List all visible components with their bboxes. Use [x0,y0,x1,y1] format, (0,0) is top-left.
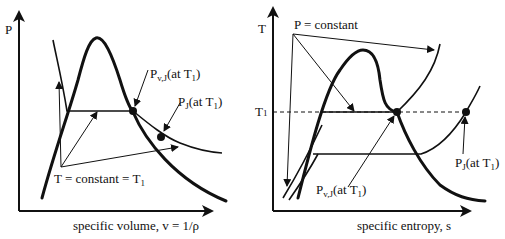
isotherm-label: T = constant = T1 [54,171,145,188]
isobar-pj [313,86,480,154]
isotherm-pointer-liquid [59,82,61,167]
s-axis-label: specific entropy, s [357,218,451,233]
pj-label-ts: PJ(at T1) [455,155,499,172]
pvj-point-pv [129,107,137,115]
pj-pointer-ts [463,117,465,154]
pj-point-ts [462,108,470,116]
diagram-canvas: P specific volume, v = 1/ρ Pv,J(at T1) P… [0,0,505,239]
pvj-label-ts: Pv,J(at T1) [316,182,366,199]
isobar-pointer-liquid [287,34,293,186]
pj-label-pv: PJ(at T1) [178,94,222,111]
pj-point-pv [157,133,165,141]
ts-diagram: T specific entropy, s T1 P = constant Pv… [255,8,499,233]
pv-diagram: P specific volume, v = 1/ρ Pv,J(at T1) P… [5,12,226,233]
v-axis-label: specific volume, v = 1/ρ [73,218,199,233]
isobar-pointer-vapor [293,34,434,50]
t1-tick-label: T1 [255,104,267,119]
t-axis-label: T [258,21,266,36]
isotherm-pointer-vapor [61,147,178,167]
pvj-label-pv: Pv,J(at T1) [150,66,200,83]
pvj-pointer-ts [348,116,394,187]
isobar-label: P = constant [294,17,358,32]
pvj-point-ts [393,108,401,116]
p-axis-label: P [5,22,12,37]
pvj-pointer-pv [135,70,148,106]
isobar-pointer-mixture [293,34,354,111]
